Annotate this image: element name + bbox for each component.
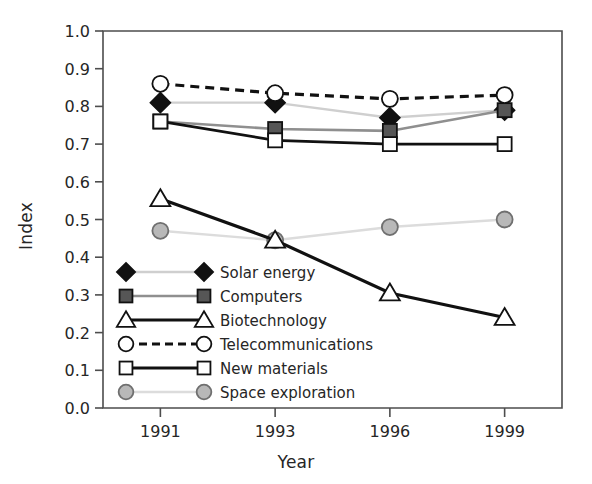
y-tick-label: 0.5 [65, 211, 90, 230]
marker-square [498, 137, 512, 151]
y-tick-label: 0.0 [65, 399, 90, 418]
chart-figure: 0.00.10.20.30.40.50.60.70.80.91.0 199119… [0, 0, 592, 484]
legend-item-computers[interactable]: Computers [120, 288, 303, 306]
marker-circle [152, 223, 168, 239]
marker-circle [197, 337, 212, 352]
legend-item-solar-energy[interactable]: Solar energy [117, 263, 316, 282]
y-tick-label: 0.7 [65, 135, 90, 154]
data-series-layer [150, 76, 514, 325]
marker-square [198, 290, 211, 303]
marker-square [498, 103, 512, 117]
y-tick-label: 1.0 [65, 22, 90, 41]
y-tick-label: 0.3 [65, 286, 90, 305]
x-tick-label: 1991 [140, 422, 181, 441]
x-tick-label: 1999 [484, 422, 525, 441]
marker-square [120, 362, 133, 375]
chart-canvas: 0.00.10.20.30.40.50.60.70.80.91.0 199119… [0, 0, 592, 484]
marker-circle [119, 385, 134, 400]
x-axis-ticks: 1991199319961999 [140, 408, 525, 441]
x-tick-label: 1996 [370, 422, 411, 441]
marker-circle [267, 85, 283, 101]
marker-circle [152, 76, 168, 92]
marker-diamond [117, 263, 135, 281]
marker-square [153, 114, 167, 128]
marker-circle [382, 91, 398, 107]
legend-label: Solar energy [220, 264, 315, 282]
marker-circle [382, 219, 398, 235]
marker-square [383, 124, 397, 138]
legend-item-telecommunications[interactable]: Telecommunications [119, 336, 374, 354]
marker-circle [197, 385, 212, 400]
marker-square [268, 133, 282, 147]
marker-diamond [195, 263, 213, 281]
series-line [160, 84, 504, 99]
y-tick-label: 0.4 [65, 248, 90, 267]
y-axis-title: Index [6, 170, 46, 280]
series-line [160, 199, 504, 318]
y-tick-label: 0.6 [65, 173, 90, 192]
y-axis-title-text: Index [16, 171, 36, 281]
legend-label: Biotechnology [220, 312, 327, 330]
x-tick-label: 1993 [255, 422, 296, 441]
y-axis-ticks: 0.00.10.20.30.40.50.60.70.80.91.0 [65, 22, 103, 418]
legend-label: Telecommunications [219, 336, 373, 354]
x-axis-title: Year [0, 452, 592, 472]
y-tick-label: 0.9 [65, 60, 90, 79]
series-computers [153, 103, 511, 138]
legend-item-biotechnology[interactable]: Biotechnology [117, 311, 327, 329]
legend-label: Computers [220, 288, 303, 306]
chart-legend: Solar energyComputersBiotechnologyTeleco… [117, 263, 373, 402]
y-tick-label: 0.1 [65, 361, 90, 380]
marker-square [198, 362, 211, 375]
marker-circle [497, 87, 513, 103]
legend-label: New materials [220, 360, 328, 378]
series-biotechnology [150, 189, 514, 325]
legend-label: Space exploration [220, 384, 355, 402]
marker-diamond [150, 93, 170, 113]
y-tick-label: 0.2 [65, 324, 90, 343]
marker-square [383, 137, 397, 151]
legend-item-space-exploration[interactable]: Space exploration [119, 384, 356, 402]
series-new-materials [153, 114, 511, 151]
marker-circle [119, 337, 134, 352]
series-line [160, 220, 504, 241]
legend-item-new-materials[interactable]: New materials [120, 360, 329, 378]
marker-triangle [380, 284, 400, 301]
marker-square [120, 290, 133, 303]
y-tick-label: 0.8 [65, 97, 90, 116]
marker-circle [497, 212, 513, 228]
marker-triangle [150, 189, 170, 206]
series-line [160, 103, 504, 118]
